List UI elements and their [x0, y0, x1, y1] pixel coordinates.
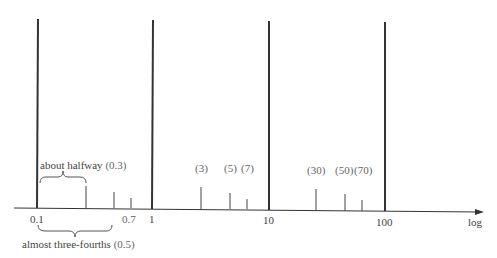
- label-1: 1: [149, 213, 155, 225]
- label-30: (30): [307, 164, 325, 176]
- brace-three-fourths-icon: [38, 225, 112, 237]
- label-7: (7): [241, 162, 254, 174]
- label-10: 10: [263, 214, 274, 226]
- label-3: (3): [195, 162, 208, 174]
- annotation-three-fourths-value: (0.5): [114, 238, 135, 250]
- annotation-halfway-value: (0.3): [105, 159, 126, 171]
- label-0.1: 0.1: [30, 213, 44, 225]
- annotation-three-fourths: almost three-fourths (0.5): [22, 238, 135, 250]
- axis-label: log: [468, 216, 482, 228]
- label-50: (50): [335, 164, 353, 176]
- annotation-three-fourths-text: almost three-fourths: [22, 238, 111, 250]
- major-line-1: [152, 20, 153, 209]
- label-100: 100: [376, 216, 393, 228]
- major-line-0.1: [37, 19, 38, 208]
- label-70: (70): [354, 164, 372, 176]
- annotation-halfway: about halfway (0.3): [40, 159, 126, 171]
- axis-arrow-icon: [475, 209, 484, 215]
- brace-halfway-icon: [40, 171, 86, 183]
- label-5: (5): [224, 162, 237, 174]
- annotation-halfway-text: about halfway: [40, 159, 103, 171]
- label-0.7: 0.7: [122, 213, 136, 225]
- log-scale-diagram: [0, 0, 497, 258]
